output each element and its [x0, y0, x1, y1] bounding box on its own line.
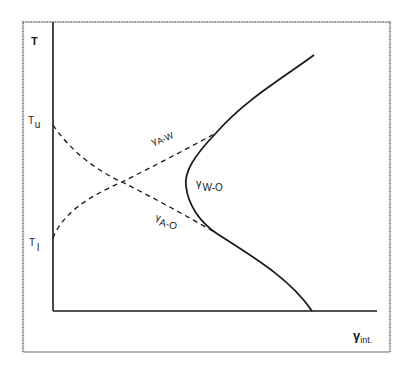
interfacial-tension-diagram: T Tu Tl γint. γA-W γW-O γA-O — [0, 0, 413, 365]
curve-gamma-a-o — [53, 125, 216, 233]
curve-gamma-a-w — [53, 133, 216, 238]
y-axis-label: T — [31, 35, 38, 47]
label-gamma-w-o: γW-O — [196, 177, 223, 193]
x-axis-label: γint. — [353, 328, 372, 345]
y-tick-label-t-lower: Tl — [29, 237, 39, 253]
y-tick-label-t-upper: Tu — [28, 115, 40, 130]
label-gamma-a-w: γA-W — [149, 127, 175, 149]
label-gamma-a-o: γA-O — [153, 211, 179, 231]
